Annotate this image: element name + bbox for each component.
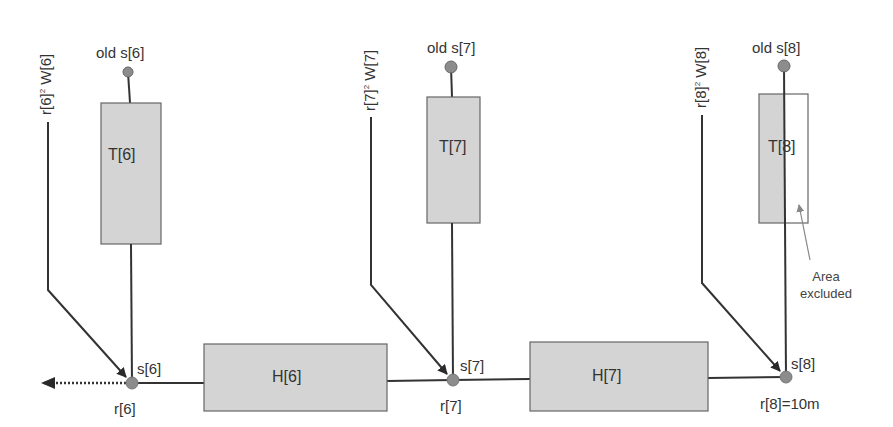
old-s6-label: old s[6]	[96, 45, 144, 60]
s6-label: s[6]	[137, 361, 161, 376]
h7-label: H[7]	[592, 368, 621, 384]
r8-label: r[8]=10m	[760, 396, 820, 411]
h6-label: H[6]	[272, 369, 301, 385]
node-8	[780, 371, 792, 383]
t7-box	[427, 97, 480, 223]
w6-label: r[6]2 W[6]	[38, 54, 53, 115]
old-s7-label: old s[7]	[427, 40, 475, 55]
node-7	[447, 374, 459, 386]
diagram-canvas	[0, 0, 893, 427]
r6-label: r[6]	[114, 401, 136, 416]
t6-label: T[6]	[108, 147, 136, 163]
w8-label: r[8]2 W[8]	[693, 47, 708, 108]
old-s8-label: old s[8]	[752, 40, 800, 55]
t6-box	[101, 103, 161, 244]
t7-label: T[7]	[439, 139, 467, 155]
s7-label: s[7]	[460, 358, 484, 373]
old-s6-node	[123, 67, 133, 77]
t8-box-shaded	[759, 94, 784, 223]
old-s8-node	[778, 60, 790, 72]
t8-label: T[8]	[768, 139, 796, 155]
s8-label: s[8]	[791, 356, 815, 371]
node-6	[126, 377, 138, 389]
w7-label: r[7]2 W[7]	[362, 50, 377, 111]
area-excluded-line2: excluded	[800, 286, 852, 303]
r7-label: r[7]	[440, 398, 462, 413]
old-s7-node	[445, 61, 457, 73]
area-excluded-line1: Area	[800, 269, 852, 286]
area-excluded-label: Area excluded	[800, 269, 852, 303]
